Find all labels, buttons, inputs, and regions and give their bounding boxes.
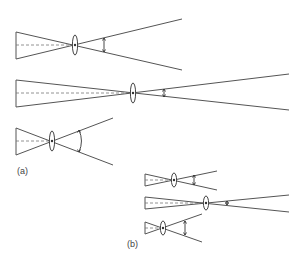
ray-line [16, 128, 113, 165]
label-b: (b) [127, 239, 138, 249]
lens-diagram-b1 [145, 171, 217, 190]
ray-line [145, 197, 289, 212]
lens-diagram-a1 [16, 19, 182, 70]
ray-line [16, 118, 113, 155]
diagram-group [16, 19, 289, 242]
lens-diagram-canvas: (a) (b) [0, 0, 302, 263]
ray-line [145, 222, 202, 242]
ray-line [145, 214, 202, 234]
label-a: (a) [17, 166, 28, 176]
angle-arc [79, 130, 81, 152]
lens-diagram-a2 [16, 74, 289, 110]
lens-center [205, 202, 207, 204]
ray-line [145, 174, 217, 190]
lens-diagram-b2 [145, 195, 289, 212]
ray-line [16, 80, 289, 110]
lens-diagram-b3 [145, 214, 202, 242]
ray-line [16, 32, 182, 70]
lens-diagram-a3 [16, 118, 113, 165]
lens-center [173, 179, 175, 181]
lens-center [74, 44, 76, 46]
lens-center [162, 227, 164, 229]
lens-center [51, 140, 53, 142]
ray-line [16, 74, 289, 107]
ray-line [16, 19, 182, 59]
ray-line [145, 195, 289, 209]
ray-line [145, 171, 217, 186]
lens-center [132, 92, 134, 94]
